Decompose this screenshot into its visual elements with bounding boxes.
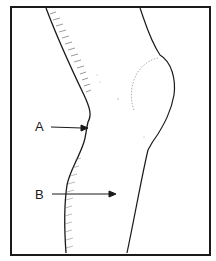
knee-illustration xyxy=(0,0,216,261)
anterior-contour xyxy=(127,8,174,253)
arrow-a xyxy=(51,125,88,131)
stipple xyxy=(96,74,144,137)
arrow-b xyxy=(52,191,116,197)
posterior-contour xyxy=(46,8,90,253)
label-a: A xyxy=(35,120,44,133)
label-b: B xyxy=(35,188,44,201)
patella-outline xyxy=(131,58,158,110)
hatching-thigh xyxy=(50,12,91,92)
hatching-calf xyxy=(65,158,81,248)
